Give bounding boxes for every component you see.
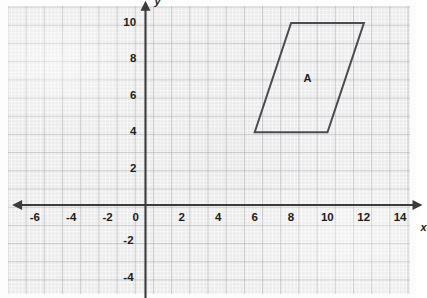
y-tick-label-4: 4	[130, 126, 136, 138]
y-tick-label-2: 2	[130, 163, 136, 175]
shape-label-a: A	[303, 73, 311, 84]
x-tick-label-4: 4	[215, 212, 221, 224]
y-tick-label-8: 8	[130, 53, 136, 65]
y-axis-name: y	[155, 0, 161, 7]
x-axis-arrow-left	[12, 200, 22, 210]
x-tick-label-neg2: -2	[103, 212, 113, 224]
y-axis-arrow-top	[141, 1, 151, 11]
x-tick-label-neg4: -4	[66, 212, 76, 224]
x-tick-label-8: 8	[288, 212, 294, 224]
x-tick-label-6: 6	[251, 212, 257, 224]
x-tick-label-0: 0	[133, 212, 139, 224]
x-tick-label-2: 2	[179, 212, 185, 224]
x-tick-label-12: 12	[357, 212, 370, 224]
x-tick-label-10: 10	[321, 212, 334, 224]
y-tick-label-neg4: -4	[123, 272, 133, 284]
y-tick-label-10: 10	[123, 17, 136, 29]
axes-group	[12, 1, 422, 298]
x-axis-name: x	[421, 222, 427, 233]
x-tick-label-14: 14	[394, 212, 407, 224]
x-tick-label-neg6: -6	[30, 212, 40, 224]
y-tick-label-6: 6	[130, 90, 136, 102]
x-axis-arrow-right	[413, 200, 423, 210]
y-tick-label-neg2: -2	[123, 235, 133, 247]
